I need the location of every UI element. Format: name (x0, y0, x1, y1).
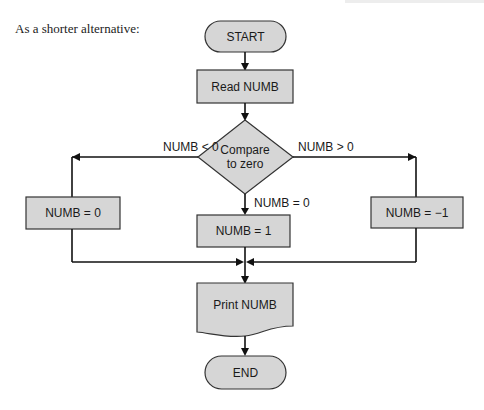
branch-left-label: NUMB < 0 (163, 140, 219, 154)
arrow-head-icon (246, 258, 254, 266)
right-process: NUMB = −1 (371, 197, 463, 228)
branch-right-label: NUMB > 0 (298, 140, 354, 154)
left-process-label: NUMB = 0 (45, 206, 101, 220)
read-label: Read NUMB (211, 80, 278, 94)
decision-compare: Compare to zero (198, 120, 293, 194)
right-process-label: NUMB = −1 (386, 206, 449, 220)
flowchart: START Read NUMB Compare to zero NUMB < 0… (0, 0, 484, 410)
print-output: Print NUMB (197, 283, 293, 336)
decision-line1: Compare (220, 143, 270, 157)
start-label: START (226, 30, 265, 44)
arrow-head-icon (72, 153, 80, 161)
arrow-head-icon (236, 258, 244, 266)
end-terminal: END (205, 356, 286, 389)
read-process: Read NUMB (197, 70, 293, 103)
print-label: Print NUMB (213, 298, 276, 312)
arrow-head-icon (408, 153, 416, 161)
arrow-head-icon (241, 348, 249, 356)
center-process: NUMB = 1 (197, 215, 290, 247)
start-terminal: START (205, 21, 286, 52)
end-label: END (233, 366, 259, 380)
arrow-head-icon (241, 208, 249, 215)
center-process-label: NUMB = 1 (216, 224, 272, 238)
decision-line2: to zero (227, 157, 264, 171)
left-process: NUMB = 0 (26, 197, 120, 229)
branch-center-label: NUMB = 0 (254, 196, 310, 210)
